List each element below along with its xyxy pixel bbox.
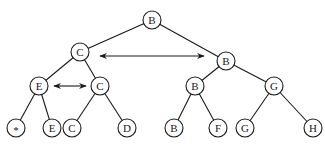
tree-node: F bbox=[209, 119, 227, 137]
tree-node: B bbox=[186, 77, 204, 95]
node-label: H bbox=[309, 122, 317, 134]
node-label: D bbox=[123, 122, 131, 134]
tree-node: C bbox=[63, 119, 81, 137]
node-label: F bbox=[215, 122, 221, 134]
node-label: B bbox=[148, 14, 155, 26]
tree-edges bbox=[16, 20, 313, 128]
node-label: G bbox=[241, 122, 249, 134]
tree-node: B bbox=[165, 119, 183, 137]
node-label: B bbox=[170, 122, 177, 134]
node-label: B bbox=[191, 80, 198, 92]
tree-node: C bbox=[91, 77, 109, 95]
tree-edge bbox=[152, 20, 226, 61]
tree-node: H bbox=[304, 119, 322, 137]
tree-node: * bbox=[7, 119, 25, 137]
node-label: C bbox=[76, 46, 83, 58]
tree-node: E bbox=[30, 77, 48, 95]
node-label: G bbox=[270, 80, 278, 92]
node-label: B bbox=[222, 55, 229, 67]
tree-node: B bbox=[143, 11, 161, 29]
node-label: C bbox=[96, 80, 103, 92]
node-label: E bbox=[49, 122, 56, 134]
tree-node: G bbox=[236, 119, 254, 137]
tree-diagram: BCBECBG*ECDBFGH bbox=[0, 0, 325, 149]
tree-node: G bbox=[265, 77, 283, 95]
node-label: E bbox=[36, 80, 43, 92]
tree-node: C bbox=[71, 43, 89, 61]
node-label: C bbox=[68, 122, 75, 134]
tree-edge bbox=[80, 20, 152, 52]
node-label: * bbox=[13, 124, 19, 136]
tree-node: D bbox=[118, 119, 136, 137]
tree-node: B bbox=[217, 52, 235, 70]
tree-node: E bbox=[43, 119, 61, 137]
